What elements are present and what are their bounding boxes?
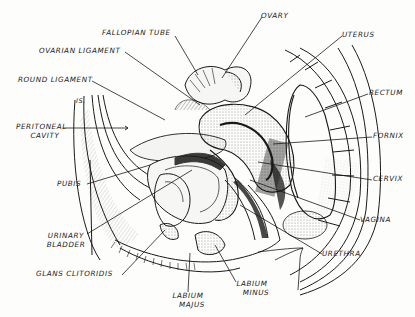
label-labium-minus-line-2: MINUS	[232, 289, 272, 298]
label-ovarian-ligament: OVARIAN LIGAMENT	[39, 47, 120, 56]
label-glans-clitoridis: GLANS CLITORIDIS	[36, 270, 113, 279]
label-labium-majus-line-2: MAJUS	[168, 301, 208, 310]
label-fallopian-tube: FALLOPIAN TUBE	[102, 29, 171, 38]
perineum	[115, 223, 280, 271]
is-annotation: IS.	[76, 97, 86, 106]
label-fornix: FORNIX	[373, 132, 404, 141]
label-urethra: URETHRA	[322, 250, 361, 259]
label-vagina: VAGINA	[360, 216, 391, 225]
label-cervix: CERVIX	[373, 175, 403, 184]
ovary-tube	[175, 66, 251, 110]
label-uterus: UTERUS	[342, 31, 375, 40]
label-pubis: PUBIS	[57, 180, 81, 189]
label-urinary-bladder: URINARY BLADDER	[44, 232, 88, 249]
label-rectum: RECTUM	[369, 89, 403, 98]
label-round-ligament: ROUND LIGAMENT	[18, 76, 93, 85]
pelvic-anatomy-diagram: IS. FALLOPIAN TUBE OVARY OVARIAN LIGAMEN…	[0, 0, 415, 317]
label-labium-majus: LABIUM MAJUS	[168, 292, 208, 309]
label-ovary: OVARY	[261, 12, 288, 21]
label-peritoneal-cavity: PERITONEAL CAVITY	[16, 123, 66, 140]
label-labium-minus: LABIUM MINUS	[232, 280, 272, 297]
label-peritoneal-line-2: CAVITY	[16, 132, 66, 141]
label-bladder-line-2: BLADDER	[44, 241, 88, 250]
